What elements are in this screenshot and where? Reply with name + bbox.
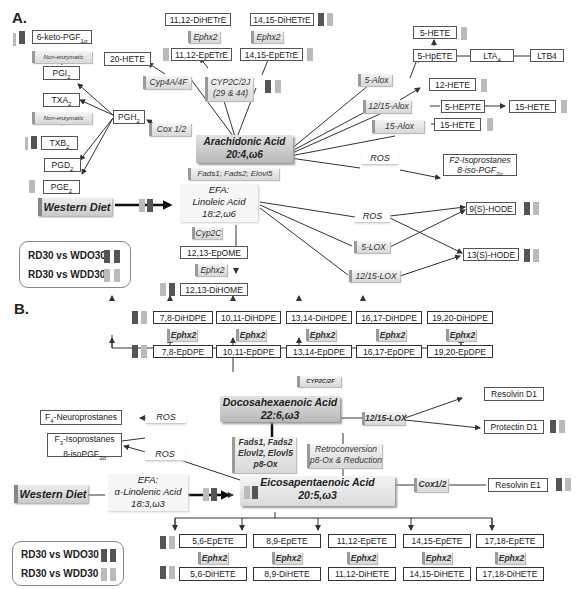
dihdpe-16-17: 16,17-DiHDPE: [356, 311, 422, 324]
docosahexaenoic-acid-node: Docosahexaenoic Acid22:6,ω3: [220, 396, 340, 422]
arrow-down-dark-icon: [132, 311, 138, 324]
legend-b: RD30 vs WDO30 RD30 vs WDD30: [12, 541, 124, 586]
epdpe-16-17: 16,17-EpDPE: [356, 345, 422, 358]
metabolite-5-hpete: 5-HpETE: [413, 49, 457, 62]
f3-isoprostanes: F3-Isoprostanes8-isoPGF3α: [47, 433, 122, 457]
enzyme-cox1-2-b: Cox1/2: [414, 478, 448, 492]
arrow-down-light-icon: [533, 202, 539, 215]
enzyme-cyp2c-2f: CYP2C/2F: [297, 376, 341, 387]
legend-row-wdo30: RD30 vs WDO30: [28, 250, 106, 261]
enzyme-fads-elovl5: Fads1; Fads2; Elovl5: [188, 168, 279, 180]
epete-14-15: 14,15-EpETE: [403, 534, 471, 548]
arrow-down-light-icon: [114, 269, 120, 282]
enzyme-ephx2-c: Ephx2: [195, 264, 227, 276]
epete-11-12: 11,12-EpETE: [328, 534, 396, 548]
arrow-down-dark-icon: [265, 80, 271, 93]
arrow-down-light-icon: [163, 48, 169, 61]
epdpe-13-14: 13,14-EpDPE: [286, 345, 352, 358]
arrow-up-dark-icon: [104, 250, 110, 263]
efa-alpha-linolenic-acid: EFA:α-Linolenic Acid18:3,ω3: [108, 474, 188, 511]
arrow-up-light-icon: [101, 568, 107, 581]
enzyme-ephx2-c3: Ephx2: [347, 552, 377, 564]
enzyme-15-alox: 15-Alox: [372, 120, 424, 133]
enzyme-cox-1-2: Cox 1/2: [149, 123, 191, 136]
arrow-down-dark-icon: [524, 249, 530, 262]
arrow-down-dark-icon: [132, 345, 138, 358]
arrow-up-light-icon: [244, 486, 250, 499]
arrow-down-light-icon: [29, 180, 35, 193]
arrow-down-light-icon: [565, 478, 571, 491]
metabolite-lta4: LTA4: [470, 49, 514, 62]
legend-a: RD30 vs WDO30 RD30 vs WDD30: [19, 241, 131, 288]
metabolite-11-12-dihetre: 11,12-DiHETrE: [165, 13, 231, 26]
arrow-up-dark-icon: [31, 136, 37, 149]
epdpe-7-8: 7,8-EpDPE: [153, 345, 213, 358]
arachidonic-acid-node: Arachidonic Acid20:4,ω6: [196, 135, 293, 163]
enzyme-ephx2-b3: Ephx2: [306, 329, 336, 341]
metabolite-pgd2: PGD2: [44, 158, 81, 172]
arrow-down-light-icon: [139, 199, 145, 212]
arrow-up-light-icon: [169, 536, 175, 549]
western-diet-b: Western Diet: [14, 485, 88, 503]
arrow-down-dark-icon: [160, 536, 166, 549]
dihdpe-7-8: 7,8-DiHDPE: [153, 311, 213, 324]
epete-17-18: 17,18-EpETE: [476, 534, 544, 548]
arrow-down-light-icon: [327, 13, 333, 26]
metabolite-6-keto-pgf1a: 6-keto-PGF1α: [32, 30, 92, 44]
enzyme-ephx2-c2: Ephx2: [272, 552, 302, 564]
dihete-8-9: 8,9-DiHETE: [253, 567, 321, 581]
enzyme-non-enzymatic-1: Non-enzymatic: [32, 51, 92, 63]
arrow-down-light-icon: [487, 118, 493, 131]
metabolite-12-13-epome: 12,13-EpOME: [180, 246, 248, 259]
efa-linoleic-acid: EFA:Linoleic Acid18:2,ω6: [180, 184, 258, 222]
enzyme-ephx2-b1: Ephx2: [167, 329, 197, 341]
resolvin-d1: Resolvin D1: [484, 387, 544, 401]
enzyme-12-15-alox: 12/15-Alox: [363, 100, 411, 113]
arrow-down-dark-icon: [556, 478, 562, 491]
legend-row-wdo30: RD30 vs WDO30: [21, 549, 99, 560]
arrow-down-dark-icon: [211, 488, 217, 501]
dihete-5-6: 5,6-DiHETE: [179, 567, 247, 581]
enzyme-cyp2c: Cyp2C: [192, 227, 222, 239]
enzyme-5-lox: 5-LOX: [354, 241, 390, 253]
enzyme-12-15-lox-a: 12/15-LOX: [349, 270, 400, 282]
arrow-down-dark-icon: [110, 549, 116, 562]
metabolite-txa2: TXA2: [43, 93, 80, 107]
metabolite-12-hete: 12-HETE: [429, 78, 476, 91]
ros-b1: ROS: [146, 411, 186, 424]
metabolite-12-13-dihome: 12,13-DiHOME: [180, 283, 248, 296]
western-diet-a: Western Diet: [38, 198, 112, 216]
panel-b-label: B.: [14, 300, 29, 317]
metabolite-9s-hode: 9(S)-HODE: [466, 202, 516, 215]
metabolite-14-15-dihetre: 14,15-DiHETrE: [250, 13, 314, 26]
metabolite-pgi2: PGI2: [43, 66, 80, 80]
enzyme-non-enzymatic-2: Non-enzymatic: [32, 112, 92, 124]
ros-b2: ROS: [145, 448, 185, 461]
dihete-17-18: 17,18-DiHETE: [476, 567, 544, 581]
metabolite-15-hete-a: 15-HETE: [509, 100, 556, 113]
enzyme-ephx2-c4: Ephx2: [422, 552, 452, 564]
arrow-down-light-icon: [481, 79, 487, 92]
enzyme-ephx2-c1: Ephx2: [198, 552, 228, 564]
epete-8-9: 8,9-EpETE: [253, 534, 321, 548]
enzyme-ephx2-b4: Ephx2: [376, 329, 406, 341]
f4-neuroprostanes: F4-Neuroprostanes: [40, 410, 122, 425]
metabolite-15-hete-b: 15-HETE: [434, 118, 481, 131]
dihete-11-12: 11,12-DiHETE: [328, 567, 396, 581]
metabolite-5-hepte: 5-HEPTE: [441, 100, 485, 113]
metabolite-pge2: PGE2: [43, 180, 80, 194]
panel-a-label: A.: [12, 9, 27, 26]
arrow-down-light-icon: [203, 488, 209, 501]
arrow-up-light-icon: [141, 311, 147, 324]
protectin-d1: Protectin D1: [484, 420, 544, 434]
arrow-up-light-icon: [25, 137, 28, 150]
metabolite-11-12-epetre: 11,12-EpETrE: [171, 48, 232, 61]
enzyme-cyp4a-4f: Cyp4A/4F: [143, 76, 191, 89]
epdpe-19-20: 19,20-EpDPE: [427, 345, 493, 358]
arrow-down-dark-icon: [160, 566, 166, 579]
arrow-down-dark-icon: [114, 250, 120, 263]
enzyme-ephx2-b2: Ephx2: [236, 329, 266, 341]
metabolite-pgh2: PGH2: [113, 110, 145, 124]
dihdpe-10-11: 10,11-DiHDPE: [216, 311, 281, 324]
dihdpe-19-20: 19,20-DiHDPE: [427, 311, 493, 324]
